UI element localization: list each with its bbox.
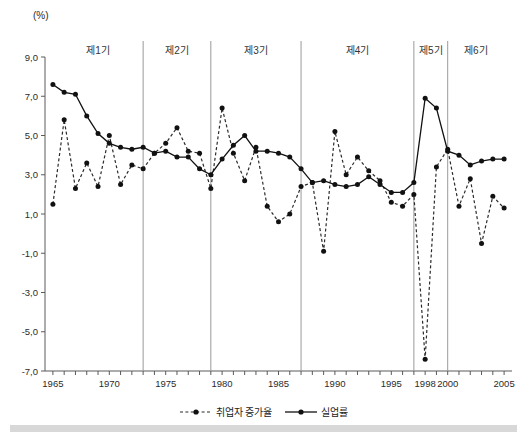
data-point-marker (50, 202, 55, 207)
x-axis-tick-label: 1998 (415, 378, 436, 389)
bottom-divider-bar (10, 425, 517, 432)
x-axis-tick-label: 1970 (99, 378, 120, 389)
legend-entry-employment-growth: 취업자 증가율 (179, 404, 273, 419)
data-point-marker (355, 182, 360, 187)
data-point-marker (468, 162, 473, 167)
y-axis-tick-label: -3,0 (22, 287, 38, 298)
data-point-marker (299, 184, 304, 189)
y-axis-tick-label: 3,0 (25, 169, 38, 180)
data-point-marker (186, 155, 191, 160)
data-point-marker (468, 176, 473, 181)
legend-solid-swatch-icon (284, 407, 318, 417)
data-point-marker (84, 160, 89, 165)
data-point-marker (321, 178, 326, 183)
period-label: 제4기 (346, 45, 370, 56)
period-label: 제2기 (165, 45, 189, 56)
data-point-marker (73, 92, 78, 97)
data-point-marker (434, 164, 439, 169)
x-axis-tick-label: 1965 (42, 378, 63, 389)
y-axis-tick-label: 9,0 (25, 52, 38, 63)
data-point-marker (276, 219, 281, 224)
legend-label: 취업자 증가율 (216, 407, 273, 418)
y-axis-tick-label: 1,0 (25, 209, 38, 220)
period-label: 제1기 (86, 45, 110, 56)
data-point-marker (50, 82, 55, 87)
data-point-marker (174, 155, 179, 160)
data-point-marker (96, 131, 101, 136)
data-point-marker (389, 190, 394, 195)
data-point-marker (242, 133, 247, 138)
data-point-marker (163, 141, 168, 146)
data-point-marker (186, 149, 191, 154)
data-point-marker (141, 166, 146, 171)
data-point-marker (366, 174, 371, 179)
data-point-marker (423, 96, 428, 101)
data-point-marker (220, 106, 225, 111)
data-point-marker (220, 157, 225, 162)
chart-legend: 취업자 증가율실업률 (0, 404, 527, 419)
data-point-marker (265, 204, 270, 209)
data-point-marker (231, 143, 236, 148)
y-axis-tick-label: -1,0 (22, 248, 38, 259)
data-point-marker (96, 184, 101, 189)
data-point-marker (129, 147, 134, 152)
data-point-marker (231, 151, 236, 156)
chart-plot-area: 9,07,05,03,01,0-1,0-3,0-5,0-7,0196519701… (0, 0, 527, 436)
legend-entry-unemployment-rate: 실업률 (284, 404, 348, 419)
data-point-marker (276, 151, 281, 156)
data-point-marker (400, 204, 405, 209)
data-point-marker (344, 184, 349, 189)
data-point-marker (129, 162, 134, 167)
data-point-marker (445, 149, 450, 154)
data-point-marker (479, 159, 484, 164)
data-point-marker (490, 157, 495, 162)
y-axis-tick-label: -5,0 (22, 326, 38, 337)
y-axis-tick-label: 5,0 (25, 130, 38, 141)
data-point-marker (174, 125, 179, 130)
data-point-marker (434, 106, 439, 111)
data-point-marker (287, 155, 292, 160)
data-point-marker (332, 182, 337, 187)
data-point-marker (208, 186, 213, 191)
period-label: 제3기 (244, 45, 268, 56)
x-axis-tick-label: 1995 (381, 378, 402, 389)
legend-dashed-swatch-icon (179, 407, 213, 417)
data-point-marker (197, 166, 202, 171)
data-point-marker (310, 180, 315, 185)
data-point-marker (332, 129, 337, 134)
chart-figure: (%) 9,07,05,03,01,0-1,0-3,0-5,0-7,019651… (0, 0, 527, 436)
data-point-marker (299, 166, 304, 171)
x-axis-tick-label: 1985 (268, 378, 289, 389)
data-point-marker (502, 206, 507, 211)
data-point-marker (479, 241, 484, 246)
data-point-marker (118, 182, 123, 187)
x-axis-tick-label: 1975 (155, 378, 176, 389)
data-point-marker (456, 204, 461, 209)
data-point-marker (378, 182, 383, 187)
data-point-marker (62, 90, 67, 95)
data-point-marker (344, 172, 349, 177)
data-point-marker (490, 194, 495, 199)
y-axis-tick-label: -7,0 (22, 366, 38, 377)
data-point-marker (502, 157, 507, 162)
x-axis-tick-label: 1990 (324, 378, 345, 389)
data-point-marker (423, 357, 428, 362)
data-point-marker (355, 155, 360, 160)
data-point-marker (84, 113, 89, 118)
x-axis-tick-label: 1980 (212, 378, 233, 389)
data-point-marker (411, 192, 416, 197)
data-point-marker (253, 149, 258, 154)
data-point-marker (321, 249, 326, 254)
data-point-marker (400, 190, 405, 195)
x-axis-tick-label: 2005 (494, 378, 515, 389)
data-point-marker (141, 145, 146, 150)
data-point-marker (456, 153, 461, 158)
data-point-marker (242, 178, 247, 183)
data-point-marker (389, 200, 394, 205)
data-point-marker (287, 212, 292, 217)
data-point-marker (118, 145, 123, 150)
data-point-marker (62, 117, 67, 122)
data-point-marker (366, 168, 371, 173)
data-point-marker (152, 151, 157, 156)
legend-label: 실업률 (321, 407, 348, 418)
